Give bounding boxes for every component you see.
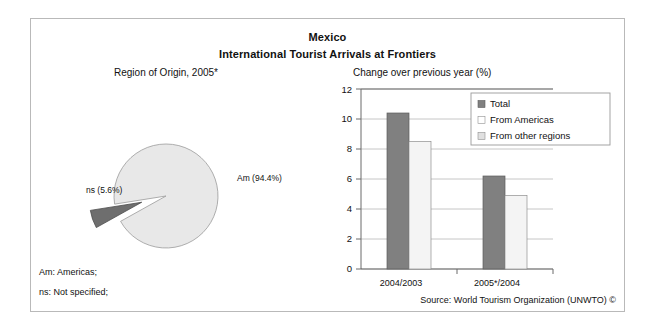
legend-label-total: Total [490, 98, 510, 109]
y-tick-0: 0 [347, 263, 352, 274]
legend-label-from-americas: From Americas [490, 114, 554, 125]
pie-label-ns: ns (5.6%) [86, 185, 122, 195]
y-tick-10: 10 [341, 113, 352, 124]
pie-slice-am [114, 144, 218, 248]
y-tick-6: 6 [347, 173, 352, 184]
footnote-ns: ns: Not specified; [39, 287, 108, 297]
bar-chart-graphic: 0 2 4 6 8 10 12 2004/2003 2005*/2004 [331, 83, 621, 298]
page-title: Mexico [31, 29, 624, 46]
header-titles: Mexico International Tourist Arrivals at… [31, 29, 624, 63]
page-subtitle: International Tourist Arrivals at Fronti… [31, 46, 624, 63]
x-tick-2005-2004: 2005*/2004 [474, 278, 520, 288]
bar-chart-legend: Total From Americas From other regions [471, 93, 610, 145]
bar-chart-panel: Change over previous year (%) [331, 67, 621, 307]
legend-swatch-from-other-regions [478, 133, 485, 140]
source-note: Source: World Tourism Organization (UNWT… [420, 295, 616, 305]
bar-total-2005-2004 [483, 176, 505, 269]
y-tick-2: 2 [347, 233, 352, 244]
pie-chart-title: Region of Origin, 2005* [41, 67, 291, 78]
bar-from-americas-2005-2004 [505, 196, 527, 270]
pie-chart-graphic [41, 85, 331, 255]
y-axis-ticks: 0 2 4 6 8 10 12 [341, 84, 361, 274]
legend-swatch-total [478, 101, 485, 108]
bar-total-2004-2003 [387, 113, 409, 269]
bar-chart-title: Change over previous year (%) [353, 67, 491, 78]
y-tick-8: 8 [347, 143, 352, 154]
y-tick-12: 12 [341, 84, 352, 95]
legend-label-from-other-regions: From other regions [490, 130, 571, 141]
y-tick-4: 4 [347, 203, 352, 214]
legend-swatch-from-americas [478, 117, 485, 124]
x-tick-2004-2003: 2004/2003 [380, 278, 423, 288]
chart-frame: Mexico International Tourist Arrivals at… [30, 18, 625, 312]
pie-chart-panel: Region of Origin, 2005* Am (94.4%) ns (5… [41, 67, 331, 267]
footnote-am: Am: Americas; [39, 267, 97, 277]
pie-label-am: Am (94.4%) [237, 173, 282, 183]
bar-from-americas-2004-2003 [409, 142, 431, 270]
